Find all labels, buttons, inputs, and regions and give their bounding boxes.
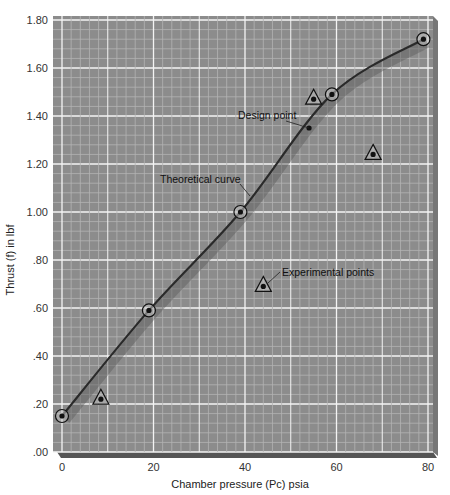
annotation-label: Experimental points [282, 266, 374, 278]
x-axis-ticks: 020406080 [59, 461, 434, 473]
y-tick-label: .20 [33, 398, 48, 410]
x-axis-title: Chamber pressure (Pc) psia [171, 478, 309, 490]
circle-marker [234, 206, 247, 219]
y-tick-label: 1.40 [27, 110, 48, 122]
y-tick-label: 1.00 [27, 206, 48, 218]
x-tick-label: 0 [59, 461, 65, 473]
annotation-label: Theoretical curve [160, 173, 241, 185]
plot-area [53, 16, 433, 452]
y-tick-label: 1.60 [27, 62, 48, 74]
annotation-label: Design point [238, 109, 296, 121]
y-tick-label: .80 [33, 254, 48, 266]
y-tick-label: 1.20 [27, 158, 48, 170]
circle-marker [142, 304, 155, 317]
x-tick-label: 80 [422, 461, 434, 473]
x-tick-label: 40 [239, 461, 251, 473]
y-tick-label: 1.80 [27, 14, 48, 26]
circle-marker [325, 88, 338, 101]
y-tick-label: .40 [33, 350, 48, 362]
y-axis-title: Thrust (f) in lbf [4, 224, 16, 296]
circle-marker [56, 410, 69, 423]
y-tick-label: .60 [33, 302, 48, 314]
circle-marker [417, 33, 430, 46]
x-tick-label: 60 [330, 461, 342, 473]
thrust-chart: Design pointTheoretical curveExperimenta… [0, 0, 450, 495]
y-tick-label: .00 [33, 446, 48, 458]
x-tick-label: 20 [147, 461, 159, 473]
y-axis-ticks: .00.20.40.60.801.001.201.401.601.80 [27, 14, 48, 458]
